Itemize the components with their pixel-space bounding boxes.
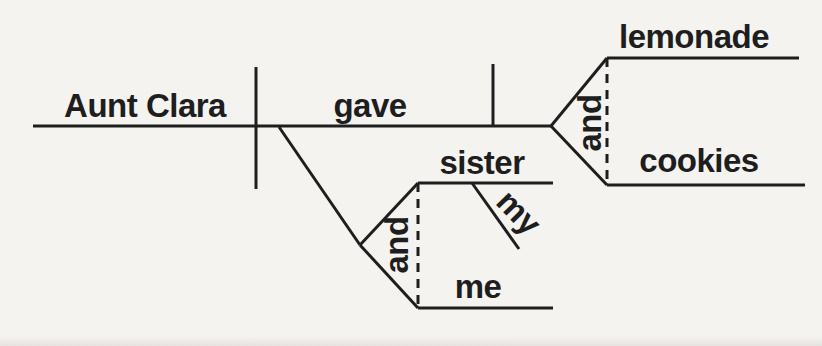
sentence-diagram: Aunt Clara gave lemonade cookies and sis… bbox=[0, 0, 822, 346]
indirect-object-connector bbox=[279, 127, 360, 245]
indirect-object-word-sister: sister bbox=[439, 146, 524, 179]
indirect-object-word-me: me bbox=[455, 270, 502, 303]
direct-object-conjunction-label: and bbox=[573, 94, 606, 151]
indirect-object-conjunction-label: and bbox=[380, 216, 413, 273]
subject-word: Aunt Clara bbox=[64, 89, 226, 122]
verb-word: gave bbox=[333, 89, 406, 122]
direct-object-word-lemonade: lemonade bbox=[619, 20, 769, 53]
direct-object-word-cookies: cookies bbox=[639, 144, 758, 177]
